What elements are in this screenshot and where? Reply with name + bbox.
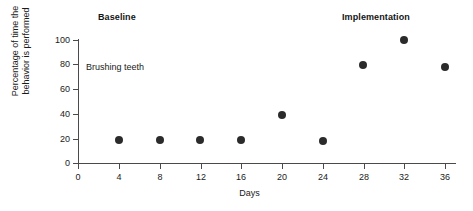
x-axis-line xyxy=(78,163,456,164)
data-point xyxy=(359,61,367,69)
data-point xyxy=(196,136,204,144)
x-tick-32 xyxy=(404,164,405,169)
y-tick-60 xyxy=(73,89,79,90)
y-tick-label-80: 80 xyxy=(60,59,70,69)
x-tick-24 xyxy=(323,164,324,169)
x-axis-title-text: Days xyxy=(239,188,260,198)
x-tick-label-12: 12 xyxy=(196,172,206,182)
y-tick-label-40: 40 xyxy=(60,109,70,119)
y-tick-40 xyxy=(73,114,79,115)
series-annotation-brushing-teeth: Brushing teeth xyxy=(86,62,144,72)
x-tick-4 xyxy=(119,164,120,169)
y-tick-80 xyxy=(73,64,79,65)
x-tick-label-20: 20 xyxy=(277,172,287,182)
x-tick-0 xyxy=(78,164,79,169)
x-tick-label-32: 32 xyxy=(399,172,409,182)
phase-label-implementation: Implementation xyxy=(342,12,410,22)
data-point xyxy=(441,63,449,71)
x-tick-28 xyxy=(364,164,365,169)
data-point xyxy=(115,136,123,144)
phase-label-baseline: Baseline xyxy=(98,12,136,22)
chart-figure: Baseline Implementation Percentage of ti… xyxy=(0,0,473,211)
y-axis-title-line-2: behavior is performed xyxy=(21,7,32,94)
x-axis-title: Days xyxy=(0,188,473,198)
y-tick-label-60: 60 xyxy=(60,84,70,94)
x-tick-16 xyxy=(241,164,242,169)
y-tick-label-0: 0 xyxy=(65,158,70,168)
x-tick-label-8: 8 xyxy=(157,172,162,182)
x-tick-20 xyxy=(282,164,283,169)
x-tick-label-28: 28 xyxy=(359,172,369,182)
y-axis-title: Percentage of time the behavior is perfo… xyxy=(6,0,36,112)
y-axis-title-line-1: Percentage of time the xyxy=(10,6,21,97)
y-tick-label-20: 20 xyxy=(60,134,70,144)
y-tick-100 xyxy=(73,40,79,41)
y-axis-line xyxy=(78,39,79,164)
data-point xyxy=(400,36,408,44)
x-tick-label-16: 16 xyxy=(236,172,246,182)
data-point xyxy=(156,136,164,144)
x-tick-label-36: 36 xyxy=(440,172,450,182)
y-tick-label-100: 100 xyxy=(55,35,70,45)
x-tick-36 xyxy=(445,164,446,169)
x-tick-label-24: 24 xyxy=(318,172,328,182)
x-tick-label-0: 0 xyxy=(75,172,80,182)
x-tick-label-4: 4 xyxy=(116,172,121,182)
y-tick-20 xyxy=(73,139,79,140)
x-tick-8 xyxy=(160,164,161,169)
data-point xyxy=(319,137,327,145)
data-point xyxy=(278,111,286,119)
data-point xyxy=(237,136,245,144)
x-tick-12 xyxy=(201,164,202,169)
